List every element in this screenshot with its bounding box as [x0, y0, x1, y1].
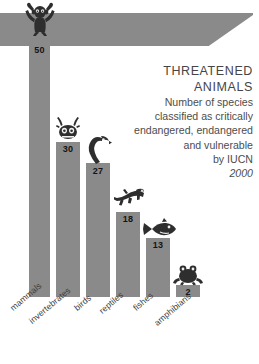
- bar-mammals: [29, 33, 50, 297]
- chart-source: by IUCN: [125, 152, 253, 166]
- insect-icon: [56, 117, 80, 143]
- chart-subtitle-line4: and vulnerable: [125, 138, 253, 152]
- frog-icon: [172, 262, 204, 286]
- caption-block: THREATENED ANIMALS Number of species cla…: [125, 64, 253, 181]
- plot-area: 50 30: [0, 0, 259, 364]
- chart-subtitle-line3: endangered, endangered: [125, 123, 253, 137]
- value-invertebrates: 30: [56, 144, 80, 154]
- lizard-icon: [112, 186, 146, 214]
- bar-birds: [86, 163, 110, 297]
- value-mammals: 50: [29, 45, 50, 55]
- value-reptiles: 18: [116, 214, 140, 224]
- value-birds: 27: [86, 166, 110, 176]
- chart-year: 2000: [125, 166, 253, 181]
- chart-subtitle-line2: classified as critically: [125, 109, 253, 123]
- bird-icon: [84, 134, 112, 166]
- chart-title-line2: ANIMALS: [125, 80, 253, 96]
- fish-icon: [142, 218, 176, 240]
- value-fishes: 13: [146, 240, 170, 250]
- infographic-chart: 50 30: [0, 0, 259, 364]
- monkey-icon: [24, 2, 56, 36]
- bar-reptiles: [116, 212, 140, 297]
- bar-invertebrates: [56, 142, 80, 297]
- chart-title-line1: THREATENED: [125, 64, 253, 80]
- chart-subtitle-line1: Number of species: [125, 95, 253, 109]
